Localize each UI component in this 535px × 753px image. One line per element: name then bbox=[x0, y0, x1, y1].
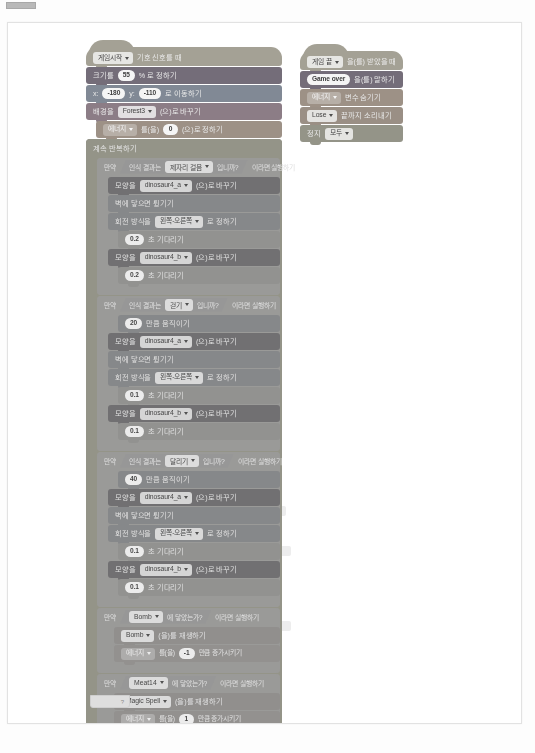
chevron-down-icon bbox=[191, 459, 195, 462]
block-canvas[interactable]: 게임 끝 을(를) 받았을 때 Game over 을(를) 말하기 에너지 변… bbox=[8, 23, 521, 723]
if-body[interactable]: Bomb (을)를 재생하기 에너지 bbox=[108, 625, 280, 665]
block-set-variable[interactable]: 에너지 를(을) 0 (으)로 정하기 bbox=[96, 121, 282, 138]
block-wait-seconds[interactable]: 0.1 초 기다리기 bbox=[118, 387, 280, 404]
block-switch-costume[interactable]: 모양을 dinosaur4_b (으)로 바꾸기 bbox=[108, 405, 280, 422]
block-wait-seconds[interactable]: 0.2 초 기다리기 bbox=[118, 231, 280, 248]
condition-recognition-result[interactable]: 인식 결과는 달리기 입니까? bbox=[120, 454, 234, 468]
size-value-input[interactable]: 55 bbox=[118, 70, 135, 81]
block-bounce-on-edge[interactable]: 벽에 닿으면 튕기기 bbox=[108, 507, 280, 524]
block-if-touching-bomb[interactable]: 만약 Bomb 에 닿았는가? 이라면 실행하기 bbox=[97, 608, 280, 673]
block-bounce-on-edge[interactable]: 벽에 닿으면 튕기기 bbox=[108, 351, 280, 368]
block-bounce-on-edge[interactable]: 벽에 닿으면 튕기기 bbox=[108, 195, 280, 212]
block-if-idle[interactable]: 만약 인식 결과는 제자리 걸음 입니까? 이라면 실행하기 bbox=[97, 158, 280, 295]
block-switch-costume[interactable]: 모양을 dinosaur4_a (으)로 바꾸기 bbox=[108, 177, 280, 194]
block-wait-seconds[interactable]: 0.1 초 기다리기 bbox=[118, 423, 280, 440]
block-stop-all[interactable]: 정지 모두 bbox=[300, 125, 403, 142]
block-hide-variable[interactable]: 에너지 변수 숨기기 bbox=[300, 89, 403, 106]
block-switch-costume[interactable]: 모양을 dinosaur4_b (으)로 바꾸기 bbox=[108, 561, 280, 578]
block-set-rotation-style[interactable]: 회전 방식을 왼쪽-오른쪽 로 정하기 bbox=[108, 525, 280, 542]
start-message-dropdown[interactable]: 게임시작 bbox=[93, 52, 133, 64]
chevron-down-icon bbox=[155, 615, 159, 618]
say-text-input[interactable]: Game over bbox=[307, 74, 350, 85]
stop-target-dropdown[interactable]: 모두 bbox=[325, 128, 353, 140]
forever-body[interactable]: 만약 인식 결과는 제자리 걸음 입니까? 이라면 실행하기 bbox=[97, 156, 282, 724]
block-set-size[interactable]: 크기를 55 % 로 정하기 bbox=[86, 67, 282, 84]
wait-seconds-input[interactable]: 0.1 bbox=[125, 390, 144, 401]
block-wait-seconds[interactable]: 0.1 초 기다리기 bbox=[118, 579, 280, 596]
if-body[interactable]: 모양을 dinosaur4_a (으)로 바꾸기 벽에 닿으면 튕기기 bbox=[108, 175, 280, 287]
wait-seconds-input[interactable]: 0.2 bbox=[125, 270, 144, 281]
variable-dropdown[interactable]: 에너지 bbox=[103, 124, 137, 136]
condition-recognition-result[interactable]: 인식 결과는 걷기 입니까? bbox=[120, 298, 228, 312]
block-say[interactable]: Game over 을(를) 말하기 bbox=[300, 71, 403, 88]
x-value-input[interactable]: -180 bbox=[102, 88, 125, 99]
change-amount-input[interactable]: -1 bbox=[179, 648, 195, 659]
script-game-over[interactable]: 게임 끝 을(를) 받았을 때 Game over 을(를) 말하기 에너지 변… bbox=[300, 51, 403, 143]
message-dropdown[interactable]: 게임 끝 bbox=[307, 56, 343, 68]
if-header: 만약 Meat14 에 닿았는가? 이라면 실행하기 bbox=[97, 674, 280, 691]
variable-dropdown[interactable]: 에너지 bbox=[121, 648, 155, 660]
block-set-rotation-style[interactable]: 회전 방식을 왼쪽-오른쪽 로 정하기 bbox=[108, 369, 280, 386]
chevron-down-icon bbox=[129, 128, 133, 131]
block-switch-backdrop[interactable]: 배경을 Forest3 (으)로 바꾸기 bbox=[86, 103, 282, 120]
wait-seconds-input[interactable]: 0.1 bbox=[125, 582, 144, 593]
block-move-to-xy[interactable]: x: -180 y: -110 로 이동하기 bbox=[86, 85, 282, 102]
sound-dropdown[interactable]: Bomb bbox=[121, 630, 154, 642]
block-if-running[interactable]: 만약 인식 결과는 달리기 입니까? 이라면 실행하기 bbox=[97, 452, 280, 607]
chevron-down-icon bbox=[195, 220, 199, 223]
chevron-down-icon bbox=[184, 568, 188, 571]
sound-dropdown[interactable]: Lose bbox=[307, 110, 337, 122]
wait-seconds-input[interactable]: 0.2 bbox=[125, 234, 144, 245]
change-amount-input[interactable]: 1 bbox=[179, 714, 194, 724]
touch-target-dropdown[interactable]: Meat14 bbox=[129, 677, 168, 689]
condition-touching-object[interactable]: Meat14 에 닿았는가? bbox=[120, 676, 216, 690]
recognition-dropdown[interactable]: 달리기 bbox=[165, 455, 199, 467]
rotation-style-dropdown[interactable]: 왼쪽-오른쪽 bbox=[155, 216, 203, 228]
hat-when-message-received[interactable]: 게임 끝 을(를) 받았을 때 bbox=[300, 51, 403, 70]
rotation-style-dropdown[interactable]: 왼쪽-오른쪽 bbox=[155, 528, 203, 540]
recognition-dropdown[interactable]: 걷기 bbox=[165, 299, 193, 311]
block-move-steps[interactable]: 40 만큼 움직이기 bbox=[118, 471, 280, 488]
costume-dropdown[interactable]: dinosaur4_a bbox=[140, 492, 192, 504]
condition-touching-object[interactable]: Bomb 에 닿았는가? bbox=[120, 610, 211, 624]
block-wait-seconds[interactable]: 0.1 초 기다리기 bbox=[118, 543, 280, 560]
block-switch-costume[interactable]: 모양을 dinosaur4_b (으)로 바꾸기 bbox=[108, 249, 280, 266]
hat-when-start-signal[interactable]: 게임시작 기호 신호를 때 bbox=[86, 47, 282, 66]
touch-target-dropdown[interactable]: Bomb bbox=[129, 611, 163, 623]
wait-seconds-input[interactable]: 0.1 bbox=[125, 426, 144, 437]
backdrop-dropdown[interactable]: Forest3 bbox=[118, 106, 156, 118]
block-switch-costume[interactable]: 모양을 dinosaur4_a (으)로 바꾸기 bbox=[108, 489, 280, 506]
block-play-sound[interactable]: Magic Spell (을)를 재생하기 bbox=[114, 693, 280, 710]
condition-recognition-result[interactable]: 인식 결과는 제자리 걸음 입니까? bbox=[120, 160, 248, 174]
variable-value-input[interactable]: 0 bbox=[163, 124, 178, 135]
block-forever-loop[interactable]: 계속 반복하기 만약 인식 결과는 제자리 걸음 bbox=[86, 139, 282, 724]
costume-dropdown[interactable]: dinosaur4_b bbox=[140, 408, 192, 420]
block-wait-seconds[interactable]: 0.2 초 기다리기 bbox=[118, 267, 280, 284]
if-body[interactable]: 40 만큼 움직이기 모양을 dinosaur4_a (으)로 바 bbox=[108, 469, 280, 599]
y-value-input[interactable]: -110 bbox=[139, 88, 161, 99]
costume-dropdown[interactable]: dinosaur4_b bbox=[140, 252, 192, 264]
costume-dropdown[interactable]: dinosaur4_a bbox=[140, 336, 192, 348]
script-main[interactable]: 게임시작 기호 신호를 때 크기를 55 % 로 정하기 x: -180 y: … bbox=[86, 47, 282, 724]
block-change-variable[interactable]: 에너지 를(을) 1 만큼 증가시키기 bbox=[114, 711, 280, 724]
block-move-steps[interactable]: 20 만큼 움직이기 bbox=[118, 315, 280, 332]
rotation-style-dropdown[interactable]: 왼쪽-오른쪽 bbox=[155, 372, 203, 384]
if-body[interactable]: 20 만큼 움직이기 모양을 dinosaur4_a (으)로 바 bbox=[108, 313, 280, 443]
wait-seconds-input[interactable]: 0.1 bbox=[125, 546, 144, 557]
block-play-sound[interactable]: Bomb (을)를 재생하기 bbox=[114, 627, 280, 644]
block-play-sound-until-done[interactable]: Lose 끝까지 소리내기 bbox=[300, 107, 403, 124]
block-change-variable[interactable]: 에너지 를(을) -1 만큼 증가시키기 bbox=[114, 645, 280, 662]
block-if-walking[interactable]: 만약 인식 결과는 걷기 입니까? 이라면 실행하기 bbox=[97, 296, 280, 451]
move-steps-input[interactable]: 40 bbox=[125, 474, 142, 485]
variable-dropdown[interactable]: 에너지 bbox=[307, 92, 341, 104]
if-header: 만약 인식 결과는 제자리 걸음 입니까? 이라면 실행하기 bbox=[97, 158, 280, 175]
recognition-dropdown[interactable]: 제자리 걸음 bbox=[165, 161, 213, 173]
if-body[interactable]: Magic Spell (을)를 재생하기 에너지 bbox=[108, 691, 280, 724]
variable-dropdown[interactable]: 에너지 bbox=[121, 714, 155, 725]
move-steps-input[interactable]: 20 bbox=[125, 318, 142, 329]
if-header: 만약 인식 결과는 걷기 입니까? 이라면 실행하기 bbox=[97, 296, 280, 313]
block-set-rotation-style[interactable]: 회전 방식을 왼쪽-오른쪽 로 정하기 bbox=[108, 213, 280, 230]
block-switch-costume[interactable]: 모양을 dinosaur4_a (으)로 바꾸기 bbox=[108, 333, 280, 350]
costume-dropdown[interactable]: dinosaur4_a bbox=[140, 180, 192, 192]
costume-dropdown[interactable]: dinosaur4_b bbox=[140, 564, 192, 576]
